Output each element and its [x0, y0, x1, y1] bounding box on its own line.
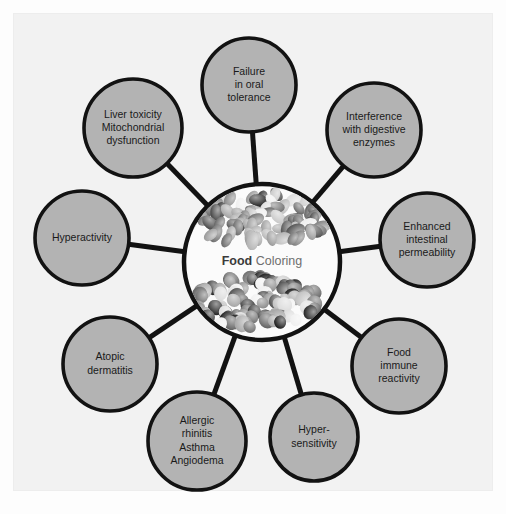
node-label-line: Atopic: [95, 350, 124, 362]
node-label-line: tolerance: [227, 91, 270, 103]
node-label: Liver toxicityMitochondrialdysfunction: [102, 108, 164, 146]
node-label-line: Hyperactivity: [52, 231, 113, 243]
node-failure-in-oral-tolerance[interactable]: Failurein oraltolerance: [202, 38, 296, 132]
node-label-line: rhinitis: [182, 427, 212, 439]
node-liver-toxicity-mitochondrial-dysfunction[interactable]: Liver toxicityMitochondrialdysfunction: [84, 79, 182, 177]
node-label-line: Angiodema: [170, 454, 223, 466]
node-label: Hyperactivity: [52, 231, 113, 243]
node-enhanced-intestinal-permeability[interactable]: Enhancedintestinalpermeability: [380, 193, 474, 287]
connector-atopic-dermatitis: [147, 304, 199, 339]
connector-enhanced-intestinal-permeability: [337, 246, 382, 252]
connector-liver-toxicity-mitochondrial-dysfunction: [166, 162, 210, 207]
node-label-line: Hyper-: [298, 423, 330, 435]
node-food-immune-reactivity[interactable]: Foodimmunereactivity: [352, 319, 446, 413]
center-title: Food Coloring: [222, 254, 303, 268]
node-allergic-rhinitis-asthma-angiodema[interactable]: AllergicrhinitisAsthmaAngiodema: [148, 392, 246, 490]
node-label-line: Enhanced: [403, 220, 450, 232]
node-label-line: Failure: [233, 65, 265, 77]
node-label-line: with digestive: [341, 123, 405, 135]
connector-hyperactivity: [127, 244, 187, 252]
node-label-line: Mitochondrial: [102, 121, 164, 133]
node-label-line: Asthma: [179, 440, 215, 452]
node-label-line: dysfunction: [106, 134, 159, 146]
node-label-line: permeability: [399, 246, 456, 258]
connector-interference-with-digestive-enzymes: [311, 164, 345, 204]
node-label-line: enzymes: [353, 136, 395, 148]
center-title-bold: Food: [222, 254, 253, 268]
connector-food-immune-reactivity: [323, 308, 364, 339]
node-label-line: Food: [387, 346, 411, 358]
connector-hyper-sensitivity: [284, 335, 302, 397]
node-label-line: immune: [380, 359, 418, 371]
node-interference-with-digestive-enzymes[interactable]: Interferencewith digestiveenzymes: [327, 83, 421, 177]
node-label-line: Allergic: [180, 414, 214, 426]
node-hyperactivity[interactable]: Hyperactivity: [35, 191, 129, 285]
node-label-line: dermatitis: [87, 363, 133, 375]
radial-diagram: Food Coloring Failurein oraltoleranceInt…: [0, 0, 506, 514]
node-label-line: in oral: [235, 78, 264, 90]
node-atopic-dermatitis[interactable]: Atopicdermatitis: [63, 317, 157, 411]
node-label-line: intestinal: [406, 233, 447, 245]
center-node[interactable]: Food Coloring: [183, 184, 340, 340]
node-label-line: sensitivity: [291, 436, 337, 448]
node-label-line: reactivity: [378, 372, 420, 384]
node-label-line: Interference: [346, 110, 402, 122]
node-label-line: Liver toxicity: [104, 108, 163, 120]
connector-failure-in-oral-tolerance: [252, 130, 256, 186]
center-title-light: Coloring: [252, 254, 302, 268]
node-label: Enhancedintestinalpermeability: [399, 220, 456, 258]
connector-allergic-rhinitis-asthma-angiodema: [213, 333, 236, 396]
figure-root: Food Coloring Failurein oraltoleranceInt…: [0, 0, 506, 514]
node-hyper-sensitivity[interactable]: Hyper-sensitivity: [270, 393, 358, 481]
